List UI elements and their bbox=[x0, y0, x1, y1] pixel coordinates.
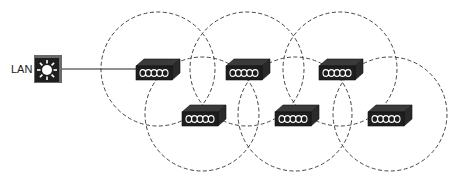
access-points bbox=[136, 59, 412, 126]
access-point-icon bbox=[226, 59, 270, 80]
sun-icon bbox=[42, 65, 52, 75]
coverage-cells bbox=[101, 12, 447, 171]
access-point-icon bbox=[136, 59, 180, 80]
lan-label: LAN bbox=[11, 63, 32, 75]
lan-switch-icon bbox=[34, 55, 62, 83]
access-point-icon bbox=[182, 105, 226, 126]
access-point-icon bbox=[275, 105, 319, 126]
access-point-icon bbox=[368, 105, 412, 126]
access-point-icon bbox=[319, 59, 363, 80]
mesh-diagram bbox=[0, 0, 460, 180]
